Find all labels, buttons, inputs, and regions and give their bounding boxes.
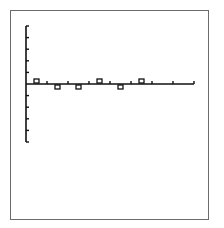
scatter-chart [0, 0, 224, 228]
data-point-square [118, 85, 123, 89]
data-point-square [76, 85, 81, 89]
data-point-square [34, 79, 39, 83]
data-point-square [55, 85, 60, 89]
data-point-square [97, 79, 102, 83]
data-point-square [139, 79, 144, 83]
axes [26, 26, 194, 142]
